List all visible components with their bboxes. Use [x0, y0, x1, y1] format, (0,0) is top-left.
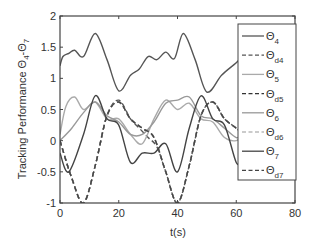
series-line-1: [60, 33, 242, 92]
series-line-8: [60, 102, 242, 203]
x-tick-label: 40: [171, 207, 183, 219]
x-axis-label: t(s): [170, 226, 186, 238]
x-tick-label: 0: [57, 207, 63, 219]
y-tick-label: -1: [46, 197, 56, 209]
plot-area: [60, 33, 242, 203]
series-line-6: [60, 102, 242, 203]
y-tick-label: 2: [50, 10, 56, 22]
x-tick-label: 20: [113, 207, 125, 219]
y-tick-label: 1: [50, 72, 56, 84]
y-tick-label: 1.5: [41, 41, 56, 53]
y-axis-label: Tracking Performance Θ4-Θ7: [16, 38, 31, 179]
x-tick-label: 80: [289, 207, 301, 219]
legend: Θ4Θd4Θ5Θd5Θ6Θd6Θ7Θd7: [238, 24, 296, 180]
y-tick-label: 0: [50, 135, 56, 147]
series-line-4: [60, 102, 242, 203]
y-tick-label: -0.5: [37, 166, 56, 178]
y-tick-label: 0.5: [41, 104, 56, 116]
x-tick-label: 60: [230, 207, 242, 219]
series-line-2: [60, 100, 242, 203]
line-chart: 020406080-1-0.500.511.52 t(s) Tracking P…: [0, 0, 315, 251]
